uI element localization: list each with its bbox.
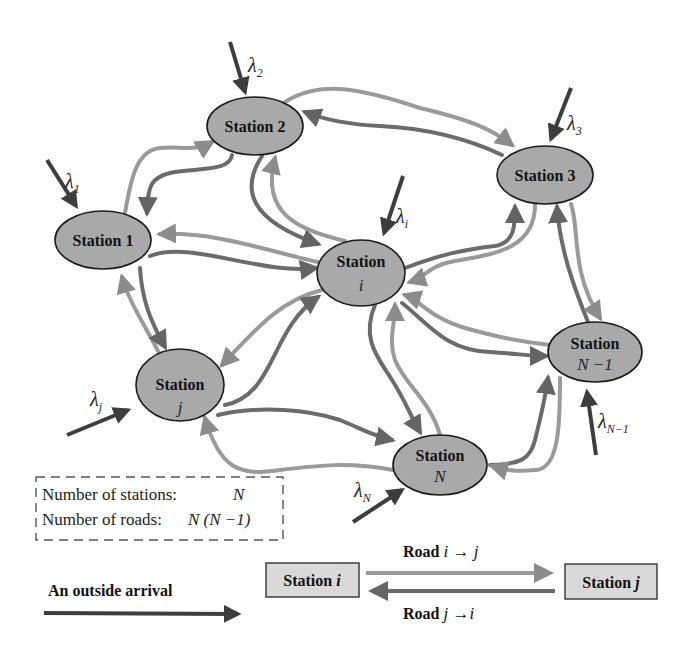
station-1-label: Station 1 bbox=[73, 232, 134, 249]
station-3-label: Station 3 bbox=[515, 167, 576, 184]
legend-station-i: Station i bbox=[283, 572, 341, 589]
legend-roads: Station i Station j Road i → j Road j →i bbox=[266, 542, 657, 623]
outside-arrival-label: An outside arrival bbox=[48, 582, 173, 599]
road-j-to-i-label: Road j →i bbox=[403, 604, 474, 623]
station-2-label: Station 2 bbox=[225, 118, 286, 135]
road-3-to-2 bbox=[305, 112, 502, 155]
station-N-1: Station N −1 bbox=[548, 322, 642, 382]
road-i-to-j-label: Road i → j bbox=[403, 542, 479, 561]
roads-count-label: Number of roads: bbox=[42, 510, 162, 529]
arrival-arrow-N-1 bbox=[587, 392, 596, 455]
outside-arrival-arrow-icon bbox=[44, 613, 238, 614]
road-N-to-j bbox=[205, 418, 393, 472]
station-3: Station 3 bbox=[497, 146, 593, 204]
station-N-index: N bbox=[433, 467, 447, 486]
road-N-to-i bbox=[392, 305, 440, 435]
road-N-1-to-3 bbox=[557, 207, 588, 322]
station-N-label: Station bbox=[416, 447, 465, 464]
station-j-index: j bbox=[176, 398, 183, 417]
lambda-N-1: λN−1 bbox=[597, 410, 629, 436]
station-i-index: i bbox=[359, 276, 364, 295]
road-3-to-N-1 bbox=[571, 204, 600, 318]
station-2: Station 2 bbox=[207, 97, 303, 155]
road-i-to-j bbox=[222, 290, 322, 365]
stations-count-value: N bbox=[232, 485, 246, 504]
station-j: Station j bbox=[136, 349, 224, 421]
road-1-to-2 bbox=[125, 142, 212, 213]
info-box: Number of stations: N Number of roads: N… bbox=[36, 477, 283, 540]
road-N-1-to-i bbox=[405, 295, 550, 345]
legend-outside-arrival: An outside arrival bbox=[44, 582, 238, 614]
lambda-i: λi bbox=[395, 205, 408, 231]
lambda-N: λN bbox=[353, 479, 372, 505]
station-N: Station N bbox=[393, 435, 487, 495]
road-j-to-N bbox=[218, 410, 392, 440]
lambda-2: λ2 bbox=[247, 54, 263, 80]
station-N-1-index: N −1 bbox=[576, 355, 613, 374]
station-1: Station 1 bbox=[55, 211, 151, 269]
road-2-to-1 bbox=[147, 155, 232, 213]
station-i: Station i bbox=[317, 240, 405, 306]
road-N-to-N-1 bbox=[490, 378, 548, 465]
road-1-to-j bbox=[140, 268, 165, 347]
road-i-to-1 bbox=[160, 234, 318, 262]
station-network-diagram: Station 1 Station 2 Station 3 Station i … bbox=[0, 0, 686, 660]
station-N-1-label: Station bbox=[571, 335, 620, 352]
diagram-canvas: Station 1 Station 2 Station 3 Station i … bbox=[0, 0, 686, 660]
arrival-arrow-j bbox=[67, 410, 128, 435]
lambda-3: λ3 bbox=[566, 112, 582, 138]
lambda-j: λj bbox=[89, 388, 103, 414]
arrival-arrow-2 bbox=[230, 42, 245, 92]
stations-count-label: Number of stations: bbox=[42, 485, 177, 504]
station-j-label: Station bbox=[156, 376, 205, 393]
station-i-label: Station bbox=[337, 253, 386, 270]
roads-count-value: N (N −1) bbox=[187, 510, 251, 529]
legend-station-j: Station j bbox=[582, 574, 640, 592]
